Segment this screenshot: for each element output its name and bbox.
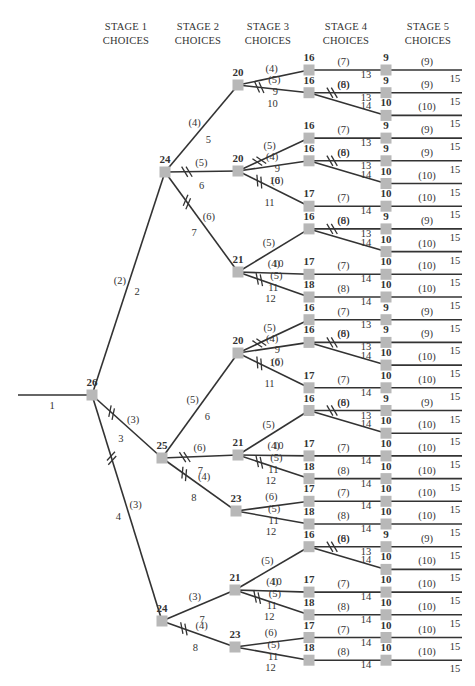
node-marker <box>304 87 315 98</box>
edge-cost: (10) <box>418 465 436 477</box>
edge-label: 13 <box>361 137 372 148</box>
node-value: 20 <box>233 152 245 164</box>
node-marker <box>304 155 315 166</box>
node-value: 17 <box>304 482 316 494</box>
edge-cost: (10) <box>418 238 436 250</box>
edge-cost: (8) <box>337 283 350 295</box>
edge-cost: (10) <box>418 374 436 386</box>
edge-label: 14 <box>361 205 372 216</box>
edge-cost: (7) <box>337 56 350 68</box>
edge-cost: (8) <box>337 601 350 613</box>
edge-cost: (5) <box>267 639 280 651</box>
edge-cost: (5) <box>263 419 276 431</box>
edge-cost: (4) <box>198 471 211 483</box>
node-value: 10 <box>381 96 393 108</box>
edge-cost: (8) <box>337 646 350 658</box>
node-value: 17 <box>304 619 316 631</box>
edge-cost: (6) <box>203 211 216 223</box>
node-value: 16 <box>304 323 316 335</box>
node-marker <box>230 642 241 653</box>
edge-label: 15 <box>450 118 461 129</box>
node-marker <box>304 405 315 416</box>
edge-cost: (5) <box>268 503 281 515</box>
node-value: 10 <box>381 550 393 562</box>
edge-label: 8 <box>191 492 196 503</box>
edge-label: 7 <box>192 227 197 238</box>
edge-cost: (3) <box>127 414 140 426</box>
node-value: 17 <box>304 573 316 585</box>
blocked-marker-icon <box>257 357 258 369</box>
edge-cost: (4) <box>266 63 279 75</box>
edge-label: 15 <box>450 663 461 674</box>
edge-label: 14 <box>361 500 372 511</box>
node-value: 9 <box>383 142 389 154</box>
edge-label: 14 <box>361 478 372 489</box>
edge-cost: (10) <box>418 646 436 658</box>
edge-label: 15 <box>450 504 461 515</box>
edge-label: 12 <box>265 293 276 304</box>
edge-label: 12 <box>265 662 276 673</box>
node-value: 16 <box>304 528 316 540</box>
edge-label: 15 <box>450 391 461 402</box>
node-value: 9 <box>383 323 389 335</box>
node-value: 21 <box>233 253 244 265</box>
node-value: 10 <box>381 573 393 585</box>
edge-label: 15 <box>450 459 461 470</box>
edge-cost: (7) <box>337 374 350 386</box>
node-value: 16 <box>304 301 316 313</box>
edge-label: 15 <box>450 96 461 107</box>
node-marker <box>304 337 315 348</box>
edge-cost: (10) <box>418 192 436 204</box>
edge-cost: (10) <box>418 510 436 522</box>
edge-cost: (4) <box>266 576 279 588</box>
edge-label: 14 <box>361 273 372 284</box>
edge-cost: (7) <box>337 260 350 272</box>
edge-label: 13 <box>361 69 372 80</box>
edge-cost: (7) <box>337 192 350 204</box>
node-marker <box>231 506 242 517</box>
stage4-edge <box>309 93 386 116</box>
node-value: 16 <box>304 142 316 154</box>
edge-cost: (10) <box>418 283 436 295</box>
edge-label: 15 <box>450 527 461 538</box>
node-marker <box>87 390 98 401</box>
edge-cost: (7) <box>337 487 350 499</box>
edge-cost: (7) <box>337 442 350 454</box>
node-value: 10 <box>381 482 393 494</box>
node-value: 10 <box>381 278 393 290</box>
edge-cost: (9) <box>421 533 434 545</box>
edge-cost: (6) <box>194 442 207 454</box>
node-value: 18 <box>304 278 316 290</box>
edge-label: 8 <box>193 642 198 653</box>
edge-cost: (9) <box>421 306 434 318</box>
blocked-marker-icon <box>261 359 262 371</box>
node-value: 9 <box>383 119 389 131</box>
edge-cost: (4) <box>188 117 201 129</box>
edge-cost: (7) <box>337 624 350 636</box>
node-value: 20 <box>233 66 245 78</box>
node-value: 16 <box>304 210 316 222</box>
edge-label: 5 <box>206 134 211 145</box>
node-value: 16 <box>304 74 316 86</box>
edge-label: 4 <box>116 511 122 522</box>
edge-cost: (9) <box>421 328 434 340</box>
node-value: 16 <box>304 392 316 404</box>
edge-cost: (5) <box>270 452 283 464</box>
node-marker <box>233 450 244 461</box>
edge-label: 14 <box>361 296 372 307</box>
node-value: 10 <box>381 641 393 653</box>
edge-label: 15 <box>450 209 461 220</box>
node-value: 9 <box>383 210 389 222</box>
edge-label: 15 <box>450 300 461 311</box>
node-value: 18 <box>304 641 316 653</box>
edge-label: 14 <box>361 169 372 180</box>
node-value: 18 <box>304 460 316 472</box>
edge-cost: (6) <box>337 147 350 159</box>
node-value: 9 <box>383 74 389 86</box>
edge-label: 12 <box>264 611 275 622</box>
edge-label: 12 <box>266 526 277 537</box>
edge-cost: (5) <box>270 270 283 282</box>
edge-label: 14 <box>361 100 372 111</box>
node-value: 10 <box>381 437 393 449</box>
edge-cost: (7) <box>337 578 350 590</box>
